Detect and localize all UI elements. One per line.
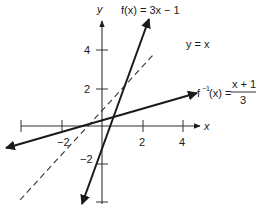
x-tick-label-neg2: −2: [57, 136, 70, 148]
y-tick-label-neg2: −2: [80, 153, 93, 165]
y-tick-label-2: 2: [84, 83, 90, 95]
function-inverse-graph: −2 2 4 x 4 2 −2 y f(x) = 3x − 1 y = x f …: [0, 0, 262, 214]
x-axis-label: x: [203, 120, 210, 132]
function-line: [82, 19, 149, 204]
svg-text:x + 1: x + 1: [232, 78, 256, 90]
x-tick-label-4: 4: [179, 136, 185, 148]
x-axis: −2 2 4 x: [21, 120, 210, 148]
svg-text:(x) =: (x) =: [209, 87, 231, 99]
svg-text:f: f: [197, 87, 201, 99]
y-tick-label-4: 4: [84, 44, 90, 56]
identity-line: [20, 55, 153, 200]
identity-label: y = x: [186, 38, 210, 50]
x-tick-label-2: 2: [139, 136, 145, 148]
y-axis-label: y: [96, 3, 104, 15]
svg-text:3: 3: [240, 94, 246, 106]
y-axis: 4 2 −2 y: [80, 3, 108, 204]
inverse-function-label: f −1 (x) = x + 1 3: [197, 78, 256, 106]
function-label: f(x) = 3x − 1: [121, 4, 180, 16]
